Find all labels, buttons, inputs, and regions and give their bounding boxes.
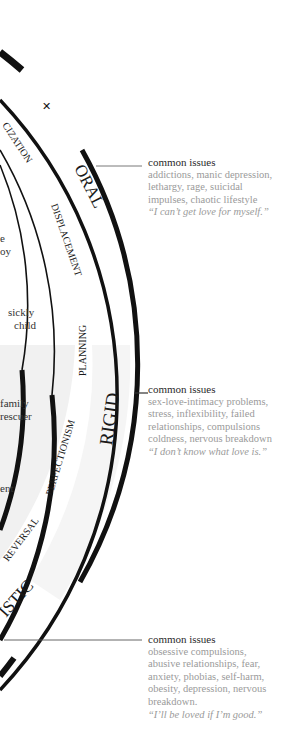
fragment-child: child: [14, 319, 36, 332]
note-line: obesity, depression, nervous: [148, 683, 307, 696]
arc-istic-thick: [0, 658, 14, 676]
note-line: anxiety, phobias, self-harm,: [148, 671, 307, 684]
label-planning: PLANNING: [77, 325, 88, 376]
note-heading: common issues: [148, 156, 307, 169]
note-line: abusive relationships, fear,: [148, 658, 307, 671]
fragment-ent: ent: [0, 482, 13, 495]
note-heading: common issues: [148, 633, 307, 646]
note-line: sex-love-intimacy problems,: [148, 396, 307, 409]
note-oral: common issues addictions, manic depressi…: [148, 156, 307, 219]
note-istic: common issues obsessive compulsions, abu…: [148, 633, 307, 721]
note-quote: “I can’t get love for myself.”: [148, 206, 307, 219]
star-mark: ✕: [42, 100, 51, 112]
fragment-rescuer: rescuer: [0, 410, 32, 423]
fragment-oy: oy: [0, 245, 11, 258]
arc-top-thick: [0, 52, 22, 70]
fragment-e: e: [0, 232, 5, 245]
note-heading: common issues: [148, 383, 307, 396]
fragment-family: family: [0, 397, 29, 410]
note-line: relationships, compulsions: [148, 421, 307, 434]
note-line: lethargy, rage, suicidal: [148, 181, 307, 194]
note-line: breakdown.: [148, 696, 307, 709]
note-line: coldness, nervous breakdown: [148, 433, 307, 446]
note-line: impulses, chaotic lifestyle: [148, 194, 307, 207]
note-line: obsessive compulsions,: [148, 646, 307, 659]
fragment-sickly: sickly: [8, 306, 34, 319]
note-quote: “I don’t know what love is.”: [148, 446, 307, 459]
note-rigid: common issues sex-love-intimacy problems…: [148, 383, 307, 459]
note-line: addictions, manic depression,: [148, 169, 307, 182]
label-displacement: DISPLACEMENT: [49, 202, 84, 278]
note-quote: “I’ll be loved if I’m good.”: [148, 709, 307, 722]
note-line: stress, inflexibility, failed: [148, 408, 307, 421]
label-istic: ISTIC: [0, 576, 37, 620]
